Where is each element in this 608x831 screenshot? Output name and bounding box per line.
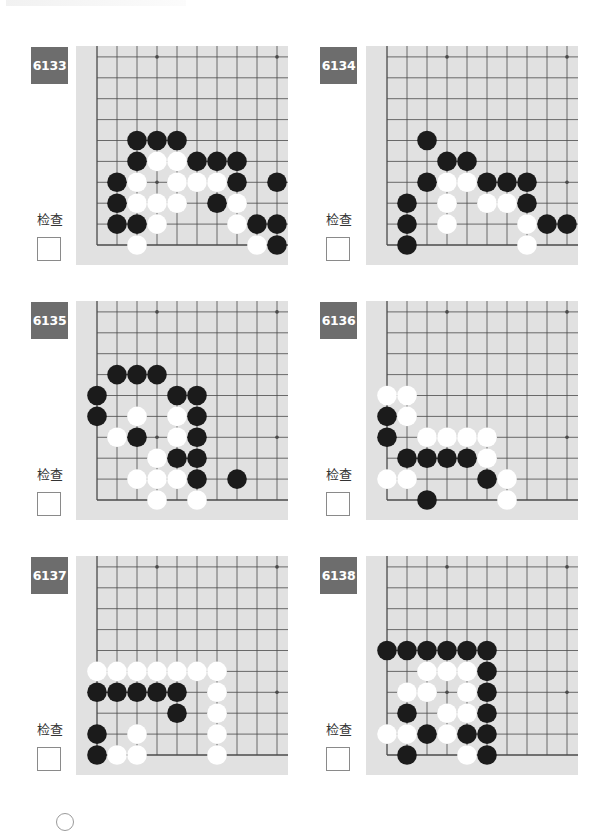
black-stone: [227, 173, 247, 193]
go-board[interactable]: [366, 301, 578, 520]
black-stone: [107, 173, 127, 193]
white-stone: [167, 173, 187, 193]
black-stone: [517, 193, 537, 213]
go-board[interactable]: [76, 301, 288, 520]
go-board[interactable]: [366, 556, 578, 775]
black-stone: [267, 235, 287, 255]
white-stone: [437, 214, 457, 234]
star-point: [565, 310, 569, 314]
white-stone: [377, 386, 397, 406]
white-stone: [107, 428, 127, 448]
white-stone: [457, 745, 477, 765]
black-stone: [397, 745, 417, 765]
go-board[interactable]: [366, 46, 578, 265]
white-stone: [127, 407, 147, 427]
white-stone: [437, 724, 457, 744]
white-stone: [397, 683, 417, 703]
check-checkbox[interactable]: [326, 237, 350, 261]
problem-number-badge: 6136: [320, 302, 357, 339]
star-point: [155, 310, 159, 314]
check-checkbox[interactable]: [326, 747, 350, 771]
black-stone: [397, 448, 417, 468]
black-stone: [127, 365, 147, 385]
white-stone: [517, 235, 537, 255]
white-stone: [167, 428, 187, 448]
white-stone: [207, 662, 227, 682]
check-label: 检查: [324, 464, 354, 483]
check-checkbox[interactable]: [37, 237, 61, 261]
white-stone: [457, 703, 477, 723]
black-stone: [187, 407, 207, 427]
star-point: [565, 565, 569, 569]
white-stone: [167, 662, 187, 682]
black-stone: [477, 469, 497, 489]
black-stone: [397, 214, 417, 234]
star-point: [565, 55, 569, 59]
white-stone: [127, 235, 147, 255]
white-stone: [477, 448, 497, 468]
white-stone: [207, 703, 227, 723]
white-stone: [227, 214, 247, 234]
white-stone: [167, 469, 187, 489]
black-stone: [397, 193, 417, 213]
black-stone: [227, 469, 247, 489]
problem-6137: 6137 检查: [31, 556, 301, 776]
white-stone: [187, 173, 207, 193]
white-stone: [457, 662, 477, 682]
check-checkbox[interactable]: [37, 492, 61, 516]
black-stone: [187, 152, 207, 172]
black-stone: [457, 641, 477, 661]
black-stone: [377, 407, 397, 427]
black-stone: [477, 173, 497, 193]
white-stone: [147, 469, 167, 489]
star-point: [275, 691, 279, 695]
black-stone: [377, 428, 397, 448]
black-stone: [477, 641, 497, 661]
black-stone: [457, 448, 477, 468]
star-point: [155, 565, 159, 569]
black-stone: [457, 152, 477, 172]
white-stone: [437, 173, 457, 193]
go-board[interactable]: [76, 46, 288, 265]
white-stone: [207, 173, 227, 193]
black-stone: [417, 131, 437, 151]
black-stone: [127, 428, 147, 448]
black-stone: [87, 407, 107, 427]
white-stone: [417, 662, 437, 682]
white-stone: [127, 662, 147, 682]
black-stone: [187, 428, 207, 448]
problem-number-badge: 6133: [31, 47, 68, 84]
black-stone: [437, 448, 457, 468]
black-stone: [187, 386, 207, 406]
problem-number-badge: 6138: [320, 557, 357, 594]
white-stone: [397, 407, 417, 427]
check-checkbox[interactable]: [37, 747, 61, 771]
problem-6138: 6138 检查: [320, 556, 590, 776]
white-stone: [247, 235, 267, 255]
black-stone: [107, 365, 127, 385]
white-stone: [147, 214, 167, 234]
black-stone: [437, 641, 457, 661]
white-stone: [207, 683, 227, 703]
black-stone: [147, 365, 167, 385]
black-stone: [397, 703, 417, 723]
black-stone: [417, 490, 437, 510]
black-stone: [397, 641, 417, 661]
go-board[interactable]: [76, 556, 288, 775]
black-stone: [187, 448, 207, 468]
check-label: 检查: [35, 209, 65, 228]
black-stone: [397, 235, 417, 255]
white-stone: [227, 193, 247, 213]
white-stone: [477, 193, 497, 213]
white-stone: [397, 386, 417, 406]
check-checkbox[interactable]: [326, 492, 350, 516]
black-stone: [557, 214, 577, 234]
check-label: 检查: [35, 719, 65, 738]
black-stone: [127, 683, 147, 703]
problem-6134: 6134 检查: [320, 46, 590, 266]
bleed-through-text: [6, 0, 186, 6]
star-point: [565, 691, 569, 695]
white-stone: [437, 662, 457, 682]
white-stone: [127, 173, 147, 193]
black-stone: [207, 152, 227, 172]
